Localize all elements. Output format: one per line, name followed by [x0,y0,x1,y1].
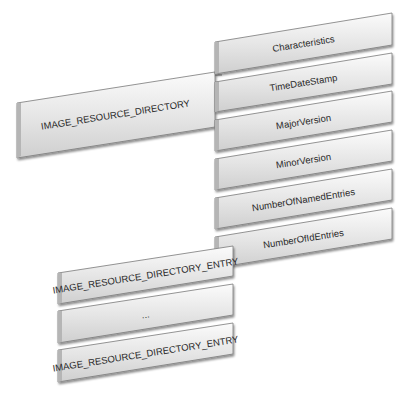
root-box[interactable]: IMAGE_RESOURCE_DIRECTORY [17,72,215,158]
entry-label: ... [141,308,151,320]
diagram-canvas: IMAGE_RESOURCE_DIRECTORY Characteristics… [0,0,406,398]
